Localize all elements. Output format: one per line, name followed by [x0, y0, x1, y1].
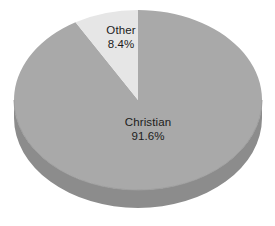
slice-label-christian: Christian 91.6%	[110, 116, 186, 143]
pie-chart-figure: Other 8.4% Christian 91.6%	[0, 0, 275, 226]
slice-label-christian-value: 91.6%	[110, 130, 186, 144]
slice-label-other-name: Other	[92, 24, 150, 38]
slice-label-other: Other 8.4%	[92, 24, 150, 51]
slice-label-christian-name: Christian	[110, 116, 186, 130]
slice-label-other-value: 8.4%	[92, 38, 150, 52]
